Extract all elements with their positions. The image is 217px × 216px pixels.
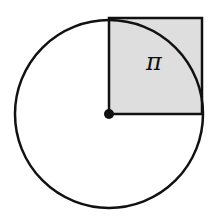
center-dot [104,109,114,119]
pi-label: π [145,48,163,76]
diagram: π [0,0,217,216]
circle-square-diagram: π [0,0,217,216]
